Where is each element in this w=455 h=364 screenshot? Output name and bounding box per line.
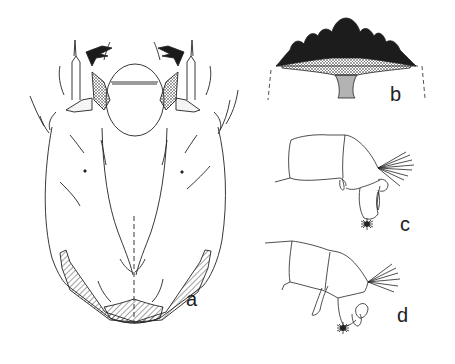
panel-c-drawing [275,135,414,230]
panel-label-d: d [397,305,408,325]
panel-label-b: b [390,84,401,104]
panel-b-drawing [268,18,425,100]
panel-label-a: a [186,289,197,309]
panel-label-c: c [400,214,410,234]
panel-d-drawing [265,241,400,334]
figure-drawing [0,0,455,364]
figure-plate: a b c d [0,0,455,364]
panel-a-drawing [30,40,238,323]
